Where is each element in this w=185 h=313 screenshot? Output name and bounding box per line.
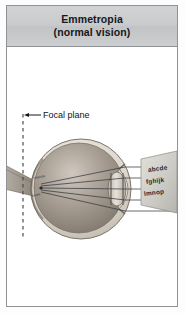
figure-title-line-1: Emmetropia: [61, 13, 123, 26]
diagram-canvas: Focal plane abcde fghijk lmnop macula fo…: [7, 47, 177, 306]
focal-point: [39, 186, 42, 189]
figure-frame: Emmetropia (normal vision): [6, 5, 178, 307]
figure-title-line-2: (normal vision): [54, 26, 131, 39]
focal-plane-arrow-head: [24, 113, 29, 117]
figure-emmetropia: Emmetropia (normal vision): [0, 0, 185, 313]
figure-title-bar: Emmetropia (normal vision): [7, 6, 177, 47]
focal-plane-label: Focal plane: [43, 110, 90, 121]
